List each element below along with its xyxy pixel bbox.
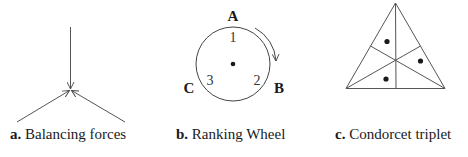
caption-a-label: a. — [10, 126, 21, 142]
rank-number-3: 3 — [207, 73, 214, 88]
panel-b-ranking-wheel: A B C 1 2 3 — [184, 8, 284, 101]
caption-a-title: Balancing forces — [25, 126, 126, 142]
caption-c: c. Condorcet triplet — [335, 126, 451, 143]
median-from-bottom-right — [371, 46, 446, 89]
condorcet-dot-lower-left — [383, 76, 388, 81]
caption-c-label: c. — [335, 126, 345, 142]
vertex-label-a: A — [228, 8, 239, 24]
caption-c-title: Condorcet triplet — [349, 126, 451, 142]
caption-b-label: b. — [176, 126, 188, 142]
caption-a: a. Balancing forces — [10, 126, 126, 143]
force-arrow-lower-right — [72, 91, 126, 123]
median-from-apex — [396, 3, 397, 89]
caption-b: b. Ranking Wheel — [176, 126, 285, 143]
caption-b-title: Ranking Wheel — [192, 126, 285, 142]
condorcet-dot-upper-left — [384, 39, 389, 44]
rank-number-1: 1 — [230, 30, 237, 45]
vertex-label-c: C — [184, 80, 195, 96]
force-arrow-lower-left — [17, 91, 70, 123]
wheel-center-dot — [231, 62, 236, 67]
panel-a-balancing-forces — [17, 27, 125, 122]
vertex-label-b: B — [274, 80, 284, 96]
condorcet-dot-right — [418, 58, 423, 63]
median-from-bottom-left — [346, 46, 421, 89]
panel-c-condorcet-triplet — [346, 3, 445, 89]
rank-number-2: 2 — [254, 73, 261, 88]
clockwise-arrow-icon — [255, 28, 276, 61]
